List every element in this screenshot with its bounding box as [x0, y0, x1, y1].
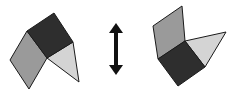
diagram-canvas [0, 0, 238, 96]
double-arrow-icon [109, 23, 123, 75]
right-figure [153, 6, 226, 86]
left-figure [10, 13, 79, 89]
